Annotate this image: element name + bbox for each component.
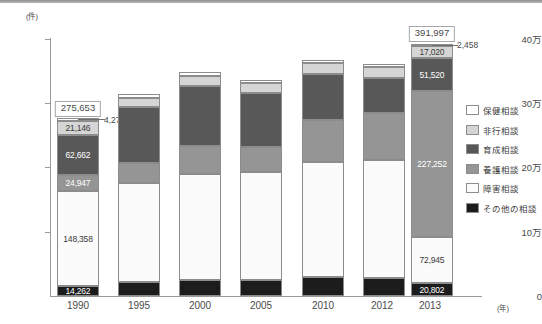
bar-2012-segment-sonota[interactable] (363, 278, 405, 296)
legend-item-sonota[interactable]: その他の相談 (466, 202, 542, 214)
bar-1990-label-sonota: 14,262 (58, 286, 98, 296)
bar-2010-segment-yougo[interactable] (302, 120, 344, 162)
legend-label-sonota: その他の相談 (483, 202, 537, 214)
x-axis-label-2005: 2005 (250, 300, 272, 311)
legend-label-yougo: 養護相談 (483, 163, 519, 175)
bar-2000-segment-ikusei[interactable] (179, 86, 221, 146)
y-tick-300000 (45, 103, 51, 104)
bar-1990-hoken-leader-line (78, 119, 105, 120)
bar-2013-label-yougo: 227,252 (412, 159, 452, 169)
legend-item-shougai[interactable]: 障害相談 (466, 182, 542, 194)
bar-2012-segment-yougo[interactable] (363, 113, 405, 160)
bar-1990-label-shougai: 148,358 (58, 234, 98, 244)
x-axis-label-2012: 2012 (371, 300, 393, 311)
bar-2013-segment-sonota[interactable]: 20,802 (411, 283, 453, 296)
y-axis-unit: (件) (26, 10, 38, 21)
bar-2013-segment-shougai[interactable]: 72,945 (411, 237, 453, 283)
bar-2013-total-callout: 391,997 (409, 26, 455, 42)
legend-swatch-ikusei (466, 144, 479, 154)
bar-2013-hoken-leader-line (432, 45, 458, 46)
bar-2013-label-hikou: 17,020 (412, 47, 452, 57)
legend-swatch-shougai (466, 183, 479, 193)
bar-2000[interactable] (179, 72, 221, 296)
bar-2010-segment-sonota[interactable] (302, 277, 344, 296)
bar-2005-segment-yougo[interactable] (240, 147, 282, 172)
bar-1990-total-callout: 275,653 (55, 101, 101, 117)
bar-2013[interactable]: 17,020 51,520 227,252 72,945 20,802 (411, 44, 453, 296)
legend-swatch-hoken (466, 105, 479, 115)
bar-1990-segment-ikusei[interactable]: 62,662 (57, 135, 99, 175)
bar-2000-segment-hikou[interactable] (179, 76, 221, 86)
bar-1990-segment-shougai[interactable]: 148,358 (57, 191, 99, 286)
bar-2013-label-shougai: 72,945 (412, 255, 452, 265)
bar-2010-segment-ikusei[interactable] (302, 74, 344, 120)
bar-2005-segment-sonota[interactable] (240, 280, 282, 296)
x-axis-line (50, 296, 482, 297)
bar-2000-segment-shougai[interactable] (179, 174, 221, 280)
legend-label-hoken: 保健相談 (483, 104, 519, 116)
x-axis-label-2013: 2013 (419, 300, 441, 311)
bar-1990[interactable]: 21,146 62,662 24,947 148,358 14,262 (57, 118, 99, 296)
bar-2005-segment-shougai[interactable] (240, 172, 282, 280)
bar-2010-segment-shougai[interactable] (302, 162, 344, 277)
bar-1990-label-yougo: 24,947 (58, 178, 98, 188)
x-axis-label-2000: 2000 (189, 300, 211, 311)
y-tick-400000 (45, 39, 51, 40)
legend-label-hikou: 非行相談 (483, 124, 519, 136)
bar-1990-segment-yougo[interactable]: 24,947 (57, 175, 99, 191)
y-axis-label-100000: 10万 (498, 225, 542, 239)
legend-item-hoken[interactable]: 保健相談 (466, 104, 542, 116)
x-axis-label-2010: 2010 (312, 300, 334, 311)
bar-2000-segment-sonota[interactable] (179, 280, 221, 296)
bar-2012-segment-ikusei[interactable] (363, 78, 405, 113)
legend-swatch-sonota (466, 203, 479, 213)
y-axis-label-0: 0 (498, 291, 542, 302)
legend-swatch-yougo (466, 164, 479, 174)
bar-1995-segment-ikusei[interactable] (118, 107, 160, 163)
plot-area: (件) 40万 30万 20万 10万 0 1990 1995 2000 200… (0, 0, 542, 324)
bar-2000-segment-yougo[interactable] (179, 146, 221, 174)
legend-label-ikusei: 育成相談 (483, 143, 519, 155)
bar-2013-segment-hikou[interactable]: 17,020 (411, 46, 453, 58)
bar-1990-segment-sonota[interactable]: 14,262 (57, 286, 99, 296)
bar-2012-segment-hikou[interactable] (363, 67, 405, 78)
chart-figure: (件) 40万 30万 20万 10万 0 1990 1995 2000 200… (0, 0, 542, 324)
bar-2013-label-sonota: 20,802 (412, 285, 452, 295)
bar-2013-segment-yougo[interactable]: 227,252 (411, 91, 453, 237)
bar-2013-segment-ikusei[interactable]: 51,520 (411, 58, 453, 91)
bar-2005-segment-ikusei[interactable] (240, 93, 282, 147)
bar-2005-segment-hikou[interactable] (240, 83, 282, 93)
y-axis-label-400000: 40万 (498, 32, 542, 46)
bar-2010[interactable] (302, 60, 344, 296)
legend-item-ikusei[interactable]: 育成相談 (466, 143, 542, 155)
chart-legend: 保健相談 非行相談 育成相談 養護相談 障害相談 その他の相談 (466, 104, 542, 221)
bar-1995-segment-yougo[interactable] (118, 163, 160, 183)
bar-1995[interactable] (118, 94, 160, 296)
x-axis-label-1990: 1990 (67, 300, 89, 311)
bar-2005[interactable] (240, 80, 282, 296)
bar-2012[interactable] (363, 64, 405, 296)
y-tick-100000 (45, 232, 51, 233)
legend-item-hikou[interactable]: 非行相談 (466, 124, 542, 136)
x-axis-label-1995: 1995 (128, 300, 150, 311)
bar-1995-segment-sonota[interactable] (118, 282, 160, 296)
bar-2013-label-hoken: 2,458 (457, 40, 478, 50)
x-axis-unit: (年) (497, 302, 509, 313)
legend-swatch-hikou (466, 125, 479, 135)
bar-1990-label-hikou: 21,146 (58, 123, 98, 133)
y-tick-200000 (45, 167, 51, 168)
bar-1990-segment-hikou[interactable]: 21,146 (57, 121, 99, 135)
legend-item-yougo[interactable]: 養護相談 (466, 163, 542, 175)
bar-2013-label-ikusei: 51,520 (412, 70, 452, 80)
bar-2010-segment-hikou[interactable] (302, 63, 344, 74)
legend-label-shougai: 障害相談 (483, 182, 519, 194)
bar-1990-label-ikusei: 62,662 (58, 150, 98, 160)
bar-1995-segment-shougai[interactable] (118, 183, 160, 282)
bar-1995-segment-hikou[interactable] (118, 98, 160, 107)
bar-2012-segment-shougai[interactable] (363, 160, 405, 278)
